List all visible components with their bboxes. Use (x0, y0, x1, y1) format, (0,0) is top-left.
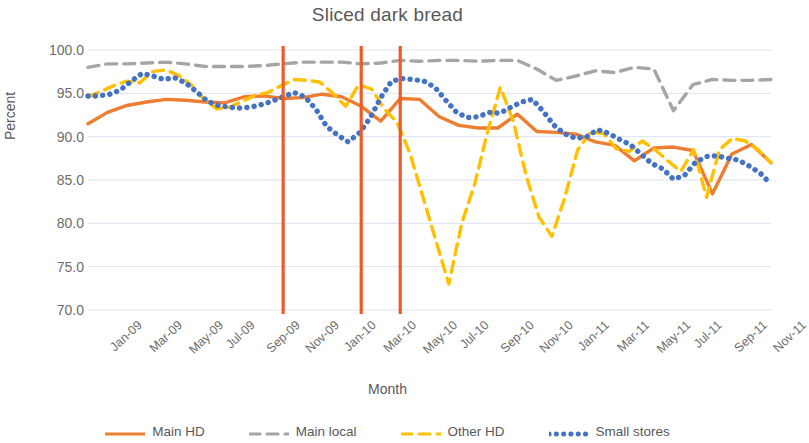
x-axis-tick: Mar-10 (381, 318, 420, 355)
legend-swatch-icon (105, 430, 145, 434)
x-axis-tick: Mar-09 (147, 318, 186, 355)
x-axis-tick: Jul-11 (691, 318, 725, 351)
chart-legend: Main HDMain localOther HDSmall stores (0, 424, 775, 439)
legend-swatch-icon (401, 430, 441, 434)
x-axis-tick: May-10 (420, 318, 460, 357)
legend-label: Main HD (152, 424, 205, 439)
legend-label: Other HD (448, 424, 505, 439)
x-axis-tick: Sep-09 (264, 318, 303, 356)
x-axis-tick: Jan-10 (341, 318, 379, 354)
legend-item[interactable]: Main HD (105, 424, 205, 439)
x-axis-tick: Jul-09 (223, 318, 257, 351)
x-axis-tick: Jan-11 (575, 318, 612, 354)
x-axis-tick: Sep-11 (732, 318, 770, 355)
x-axis-tick: Nov-10 (537, 318, 576, 356)
legend-item[interactable]: Main local (249, 424, 357, 439)
legend-item[interactable]: Other HD (401, 424, 505, 439)
x-axis-tick: Nov-11 (771, 318, 809, 355)
legend-label: Small stores (596, 424, 670, 439)
x-axis-tick: Sep-10 (498, 318, 537, 356)
legend-label: Main local (296, 424, 357, 439)
x-axis-tick: Jan-09 (107, 318, 145, 354)
x-axis-tick: Nov-09 (303, 318, 342, 356)
x-axis-tick: Mar-11 (615, 318, 653, 355)
x-axis-tick: May-11 (654, 318, 693, 356)
legend-item[interactable]: Small stores (549, 424, 670, 439)
x-axis-tick: May-09 (186, 318, 226, 357)
legend-swatch-icon (549, 430, 589, 434)
x-axis-tick: Jul-10 (457, 318, 491, 351)
legend-swatch-icon (249, 430, 289, 434)
